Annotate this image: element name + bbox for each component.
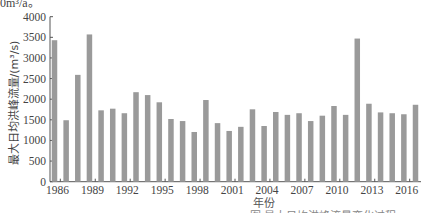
bar-1986 bbox=[52, 40, 58, 181]
x-tick-label: 1995 bbox=[151, 184, 174, 196]
bar-2006 bbox=[285, 115, 291, 182]
bar-2017 bbox=[413, 105, 419, 182]
bar-2009 bbox=[320, 116, 326, 182]
bar-1988 bbox=[75, 75, 81, 182]
y-tick-label: 1500 bbox=[23, 114, 46, 126]
x-tick-label: 2016 bbox=[395, 184, 418, 196]
x-tick-label: 1989 bbox=[81, 184, 104, 196]
bar-2013 bbox=[366, 104, 372, 182]
bar-1994 bbox=[145, 95, 151, 182]
bar-1995 bbox=[157, 102, 163, 181]
y-tick-label: 3000 bbox=[23, 52, 46, 64]
x-tick-label: 1998 bbox=[186, 184, 209, 196]
bar-1992 bbox=[122, 113, 128, 181]
bar-2015 bbox=[389, 113, 395, 181]
bar-1987 bbox=[63, 120, 68, 181]
bar-2004 bbox=[261, 126, 267, 182]
bar-1999 bbox=[203, 100, 209, 182]
y-tick-label: 4000 bbox=[23, 11, 46, 23]
bar-2008 bbox=[308, 121, 314, 182]
bar-1997 bbox=[180, 121, 186, 182]
bar-1996 bbox=[168, 119, 174, 182]
x-tick-label: 2010 bbox=[325, 184, 348, 196]
bar-2007 bbox=[296, 113, 302, 181]
bar-2002 bbox=[238, 127, 244, 182]
bar-2012 bbox=[355, 39, 361, 182]
bar-2016 bbox=[401, 114, 407, 181]
bar-1998 bbox=[191, 132, 197, 182]
y-tick-label: 2500 bbox=[23, 73, 46, 85]
bar-2011 bbox=[343, 115, 349, 182]
x-tick-label: 2013 bbox=[360, 184, 383, 196]
bar-2003 bbox=[250, 109, 256, 181]
bar-1989 bbox=[87, 34, 93, 181]
y-tick-label: 2000 bbox=[23, 93, 46, 105]
bar-2005 bbox=[273, 112, 279, 182]
figure-caption: 图 最大日均洪峰流量变化过程 bbox=[250, 207, 397, 213]
y-tick-label: 3500 bbox=[23, 31, 46, 43]
bar-2000 bbox=[215, 123, 221, 182]
x-tick-label: 2007 bbox=[291, 184, 314, 196]
x-tick-label: 1986 bbox=[46, 184, 69, 196]
bar-1993 bbox=[133, 92, 139, 182]
bar-1991 bbox=[110, 109, 116, 182]
y-tick-label: 500 bbox=[29, 155, 47, 167]
bar-2010 bbox=[331, 106, 337, 182]
bar-2014 bbox=[378, 112, 384, 181]
bar-2001 bbox=[226, 131, 232, 182]
bar-1990 bbox=[98, 110, 104, 181]
x-tick-label: 1992 bbox=[116, 184, 139, 196]
bar-chart: 0500100015002000250030003500400019861989… bbox=[0, 0, 425, 213]
x-tick-label: 2001 bbox=[221, 184, 244, 196]
y-tick-label: 1000 bbox=[23, 134, 46, 146]
